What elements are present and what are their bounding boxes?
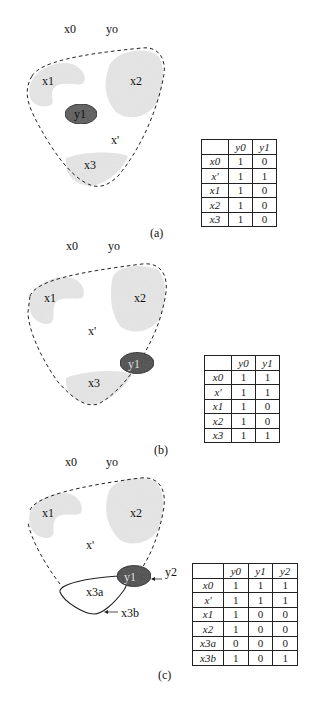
yo-label: yo <box>106 22 118 37</box>
y1-label: y1 <box>74 107 86 122</box>
caption-c: (c) <box>158 668 171 683</box>
table-row: x'11 <box>205 385 280 400</box>
table-row: x2100 <box>193 622 298 637</box>
table-corner <box>193 564 224 579</box>
table-row: x3b101 <box>193 651 298 666</box>
col-header: y0 <box>232 356 256 371</box>
caption-b: (b) <box>154 443 168 458</box>
xprime-label: x' <box>86 538 94 553</box>
table-row: x'111 <box>193 593 298 608</box>
caption-a: (a) <box>150 226 163 241</box>
x1-label: x1 <box>44 291 56 306</box>
x0-label: x0 <box>64 22 76 37</box>
y1-label: y1 <box>128 357 140 372</box>
yo-label: yo <box>106 455 118 470</box>
x3-region <box>66 152 128 186</box>
table-row: x110 <box>205 399 280 414</box>
x0-label: x0 <box>65 455 77 470</box>
yo-label: yo <box>108 239 120 254</box>
table-row: x1100 <box>193 607 298 622</box>
xprime-label: x' <box>111 133 119 148</box>
x1-region <box>29 63 85 106</box>
panel-c-table: y0y1y2 x0111 x'111 x1100 x2100 x3a000 x3… <box>192 563 298 666</box>
col-header: y2 <box>273 564 298 579</box>
table-row: x'11 <box>202 169 277 184</box>
x3a-label: x3a <box>86 585 103 600</box>
x3-label: x3 <box>88 376 100 391</box>
x1-label: x1 <box>42 74 54 89</box>
col-header: y1 <box>248 564 273 579</box>
x1-label: x1 <box>42 506 54 521</box>
y1-label: y1 <box>124 570 136 585</box>
table-corner <box>202 140 229 155</box>
y2-label: y2 <box>165 565 177 580</box>
col-header: y1 <box>253 140 277 155</box>
table-row: x010 <box>202 154 277 169</box>
table-row: x210 <box>202 198 277 213</box>
table-corner <box>205 356 232 371</box>
table-row: x3a000 <box>193 636 298 651</box>
x3-label: x3 <box>84 158 96 173</box>
table-row: x310 <box>202 212 277 227</box>
x2-label: x2 <box>130 506 142 521</box>
table-row: x0111 <box>193 578 298 593</box>
x3b-label: x3b <box>121 606 139 621</box>
x2-label: x2 <box>130 74 142 89</box>
col-header: y0 <box>229 140 253 155</box>
x2-label: x2 <box>134 291 146 306</box>
x1-region <box>29 493 82 538</box>
panel-a-table: y0y1 x010 x'11 x110 x210 x310 <box>201 139 277 227</box>
table-row: x110 <box>202 183 277 198</box>
xprime-label: x' <box>88 324 96 339</box>
panel-b-table: y0y1 x011 x'11 x110 x210 x311 <box>204 355 280 443</box>
table-row: x210 <box>205 414 280 429</box>
x1-region <box>29 277 84 324</box>
table-row: x011 <box>205 370 280 385</box>
col-header: y0 <box>224 564 249 579</box>
x0-label: x0 <box>66 239 78 254</box>
col-header: y1 <box>256 356 280 371</box>
table-row: x311 <box>205 428 280 443</box>
